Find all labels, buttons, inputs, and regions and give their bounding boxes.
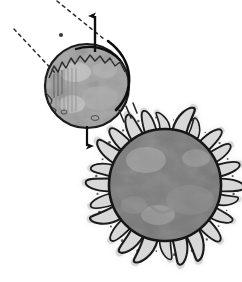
corona-speck: [136, 249, 139, 252]
corona-speck: [102, 158, 104, 160]
large-sphere-group: [82, 104, 242, 269]
corona-speck: [173, 119, 174, 120]
corona-speck: [227, 158, 229, 160]
marker-dot: [59, 33, 63, 37]
corona-speck: [226, 210, 228, 212]
corona-speck: [204, 132, 206, 134]
corona-speck: [232, 193, 234, 195]
corona-speck: [155, 250, 157, 252]
corona-speck: [121, 239, 124, 242]
corona-speck: [206, 238, 208, 240]
corona-speck: [232, 175, 234, 177]
dashed-trajectory-upper: [57, 1, 104, 39]
corona-speck: [191, 249, 194, 252]
corona-speck: [218, 225, 220, 227]
corona-speck: [108, 141, 111, 144]
dashed-trajectory-lower: [14, 29, 57, 75]
corona-speck: [218, 142, 220, 144]
illustration-canvas: A smaller mottled sphere at upper left w…: [0, 0, 242, 282]
small-sphere-hatching: [52, 68, 76, 112]
corona-speck: [155, 116, 157, 118]
corona-speck: [98, 211, 101, 214]
corona-speck: [173, 253, 176, 256]
figure-svg: [0, 0, 242, 282]
corona-speck: [122, 129, 124, 131]
corona-speck: [96, 193, 98, 195]
corona-speck: [95, 175, 97, 177]
corona-speck: [110, 225, 112, 227]
corona-speck: [137, 120, 139, 122]
